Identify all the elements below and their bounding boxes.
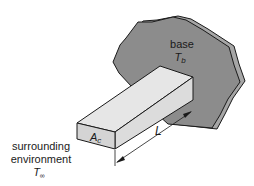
environment-label-line2: environment <box>11 153 72 165</box>
fin-diagram: base Tb Ac L surrounding environment T∞ <box>0 0 254 186</box>
base-label: base <box>170 38 194 50</box>
length-label: L <box>155 124 162 138</box>
environment-temp-label: T∞ <box>33 166 45 179</box>
environment-label-line1: surrounding <box>12 140 70 152</box>
